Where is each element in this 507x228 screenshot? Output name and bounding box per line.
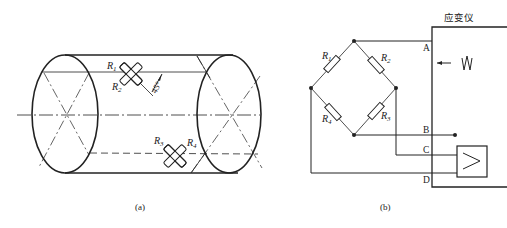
terminal-c-label: C [423,145,429,155]
label-r1-b: R1 [321,50,332,63]
label-r4-b: R4 [321,113,332,126]
right-helix-solid-bottom [191,152,206,173]
amplifier-box [457,146,487,177]
left-end-ellipse [32,55,98,173]
left-diagonal-2 [39,73,89,167]
label-r2-b: R2 [380,52,391,65]
label-r2-a: R2 [111,81,122,94]
strain-meter-frame [432,27,507,187]
angle-arrowhead [158,74,162,81]
amplifier-symbol-icon [463,153,480,169]
terminal-b-label: B [423,125,429,135]
label-r3-b: R3 [380,110,391,123]
terminal-a-label: A [423,43,430,53]
terminal-d-label: D [423,175,430,185]
right-helix-solid-top [197,56,210,78]
wire-to-d [311,88,457,173]
node-left [309,86,313,90]
figure-b-bridge [311,27,507,187]
excitation-arrowhead-icon [437,61,442,65]
caption-a: (a) [135,202,145,212]
diagram-canvas: R1 R2 45° R3 R4 (a) [0,0,507,228]
angle-label-45: 45° [149,80,163,95]
node-b-terminal [453,133,457,137]
caption-b: (b) [380,202,391,212]
strain-meter-label: 应变仪 [444,12,474,23]
label-r4-a: R4 [186,137,197,150]
node-right [394,86,398,90]
node-top [352,39,356,43]
figure-a-shaft [17,55,262,173]
label-r3-a: R3 [153,135,164,148]
label-r1-a: R1 [106,60,117,73]
node-bottom [352,133,356,137]
ac-excitation-waveform-icon [462,56,472,70]
